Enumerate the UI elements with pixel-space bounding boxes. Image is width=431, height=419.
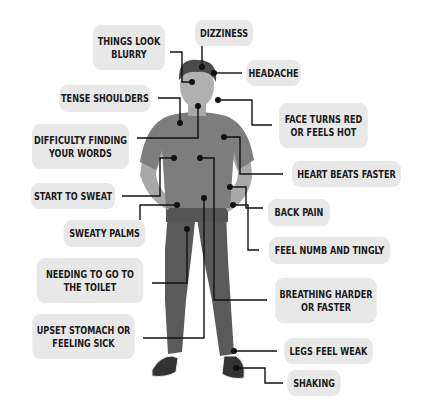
label-shaking: SHAKING	[287, 370, 340, 396]
label-upset-stomach: UPSET STOMACH OR FEELING SICK	[32, 314, 134, 359]
label-feel-numb-tingly: FEEL NUMB AND TINGLY	[269, 237, 390, 264]
label-tense-shoulders: TENSE SHOULDERS	[59, 85, 150, 112]
label-things-look-blurry: THINGS LOOK BLURRY	[93, 25, 165, 70]
label-heart-beats-faster: HEART BEATS FASTER	[292, 161, 401, 187]
label-headache: HEADACHE	[246, 60, 300, 86]
left-shoe	[152, 356, 178, 377]
label-start-to-sweat: START TO SWEAT	[31, 183, 115, 209]
label-back-pain: BACK PAIN	[268, 199, 330, 226]
symptoms-diagram: THINGS LOOK BLURRY DIZZINESS HEADACHE TE…	[0, 0, 431, 419]
label-needing-toilet: NEEDING TO GO TO THE TOILET	[37, 258, 144, 303]
label-dizziness: DIZZINESS	[195, 20, 253, 46]
right-leg	[196, 212, 234, 356]
label-breathing-harder: BREATHING HARDER OR FASTER	[275, 278, 376, 323]
label-face-turns-red: FACE TURNS RED OR FEELS HOT	[279, 103, 368, 148]
label-difficulty-finding-words: DIFFICULTY FINDING YOUR WORDS	[32, 124, 129, 169]
label-sweaty-palms: SWEATY PALMS	[64, 220, 146, 247]
label-legs-feel-weak: LEGS FEEL WEAK	[284, 338, 373, 364]
